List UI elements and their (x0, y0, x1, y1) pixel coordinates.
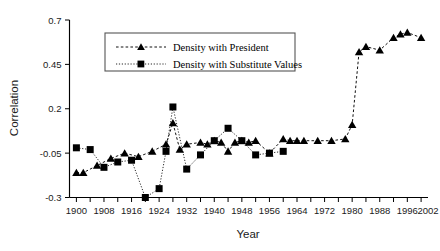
x-tick-label: 1972 (314, 205, 335, 216)
data-point-marker (128, 157, 135, 164)
y-tick-label: -0.3 (45, 192, 61, 203)
data-point-marker (169, 103, 176, 110)
x-tick-label: 1908 (93, 205, 114, 216)
legend-label: Density with Substitute Values (173, 59, 302, 70)
data-point-marker (156, 185, 163, 192)
x-tick-label: 1900 (66, 205, 87, 216)
x-tick-label: 1980 (342, 205, 363, 216)
data-point-marker (163, 148, 170, 155)
x-tick-label: 1948 (231, 205, 252, 216)
data-point-marker (100, 164, 107, 171)
data-point-marker (87, 146, 94, 153)
data-point-marker (266, 150, 273, 157)
x-axis-tick-labels: 1900190819161924193219401948195619641972… (66, 205, 439, 216)
correlation-line-chart: 0.70.450.2-0.05-0.3 19001908191619241932… (0, 0, 440, 251)
legend-label: Density with President (173, 42, 269, 53)
x-tick-label: 1916 (121, 205, 142, 216)
chart-legend: Density with PresidentDensity with Subst… (105, 33, 302, 71)
data-point-marker (73, 144, 80, 151)
x-tick-label: 1932 (176, 205, 197, 216)
x-tick-label: 1956 (259, 205, 280, 216)
y-tick-label: -0.05 (40, 148, 62, 159)
x-tick-label: 1996 (397, 205, 418, 216)
data-point-marker (252, 151, 259, 158)
data-point-marker (280, 148, 287, 155)
y-tick-label: 0.2 (48, 103, 61, 114)
x-tick-label: 2002 (417, 205, 438, 216)
x-tick-label: 1988 (369, 205, 390, 216)
data-point-marker (114, 159, 121, 166)
x-tick-label: 1924 (149, 205, 170, 216)
y-axis-title: Correlation (8, 80, 20, 136)
data-point-marker (142, 194, 149, 201)
chart-figure: 0.70.450.2-0.05-0.3 19001908191619241932… (0, 0, 440, 251)
data-point-marker (183, 166, 190, 173)
x-axis-title: Year (236, 228, 259, 240)
y-tick-label: 0.7 (48, 15, 61, 26)
data-point-marker (211, 137, 218, 144)
x-tick-label: 1940 (204, 205, 225, 216)
x-tick-label: 1964 (286, 205, 307, 216)
data-point-marker (238, 137, 245, 144)
legend-square-icon (138, 61, 145, 68)
y-tick-label: 0.45 (43, 59, 62, 70)
data-point-marker (225, 125, 232, 132)
data-point-marker (197, 151, 204, 158)
